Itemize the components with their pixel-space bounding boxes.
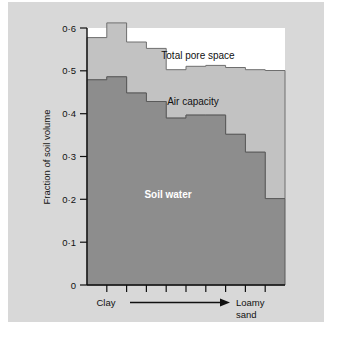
y-tick-label-0.5: 0·5 bbox=[62, 65, 76, 76]
chart-figure: 0 0·1 0·2 0·3 0·4 0·5 0·6 Fraction of so… bbox=[8, 2, 324, 322]
x-caption-right-label-line2: sand bbox=[236, 309, 257, 320]
figure-page: 0 0·1 0·2 0·3 0·4 0·5 0·6 Fraction of so… bbox=[0, 0, 338, 346]
annotation-soil-water: Soil water bbox=[144, 189, 191, 200]
y-tick-label-0.4: 0·4 bbox=[62, 108, 76, 119]
annotation-total-pore-space: Total pore space bbox=[161, 50, 235, 61]
y-axis-title: Fraction of soil volume bbox=[41, 109, 52, 204]
y-axis-ticks bbox=[80, 28, 87, 285]
y-tick-label-0.2: 0·2 bbox=[62, 194, 76, 205]
y-tick-label-0.3: 0·3 bbox=[62, 151, 76, 162]
x-axis-ticks bbox=[107, 285, 265, 292]
y-tick-label-0.6: 0·6 bbox=[62, 23, 76, 34]
x-caption-left-label: Clay bbox=[96, 297, 115, 308]
gradient-arrow-icon bbox=[130, 299, 230, 307]
x-caption-right-label-line1: Loamy bbox=[236, 297, 265, 308]
soil-pore-space-area-chart: 0 0·1 0·2 0·3 0·4 0·5 0·6 Fraction of so… bbox=[8, 2, 324, 322]
y-tick-label-0: 0 bbox=[71, 280, 76, 291]
y-tick-label-0.1: 0·1 bbox=[62, 237, 76, 248]
annotation-air-capacity: Air capacity bbox=[167, 96, 219, 107]
